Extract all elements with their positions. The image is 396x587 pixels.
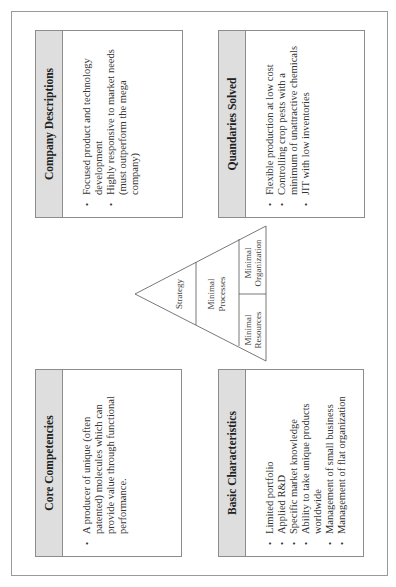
pyramid-base-right-label-2: Organization bbox=[253, 239, 263, 286]
diagram-canvas: Core Competencies A producer of unique (… bbox=[0, 0, 396, 587]
pyramid-apex-label: Strategy bbox=[174, 279, 184, 309]
pyramid-base-left-label-1: Minimal bbox=[243, 314, 253, 345]
pyramid-middle-label-1: Minimal bbox=[206, 278, 216, 309]
pyramid-base-right-label-1: Minimal bbox=[243, 247, 253, 278]
strategy-pyramid: Strategy Minimal Processes Minimal Resou… bbox=[0, 0, 396, 587]
pyramid-base-left-label-2: Resources bbox=[253, 311, 263, 348]
pyramid-middle-label-2: Processes bbox=[217, 276, 227, 311]
